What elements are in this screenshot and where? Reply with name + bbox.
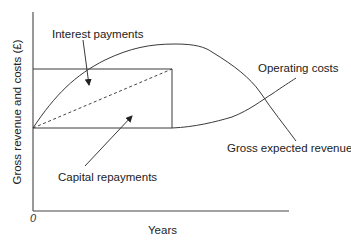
interest-payments-arrow (83, 40, 89, 85)
origin-label: 0 (30, 212, 37, 224)
capital-repayments-arrow (85, 116, 132, 166)
interest-payments-label: Interest payments (52, 28, 144, 40)
operating-costs-curve (172, 78, 296, 128)
gross-expected-revenue-label: Gross expected revenue (227, 142, 351, 154)
operating-costs-label: Operating costs (258, 62, 339, 74)
financing-diagram: Gross revenue and costs (£) Years 0 Inte… (0, 0, 351, 249)
capital-repayments-label: Capital repayments (58, 171, 157, 183)
y-axis-label: Gross revenue and costs (£) (11, 39, 23, 184)
capital-repayments-line (33, 69, 172, 128)
gross-expected-revenue-curve (33, 44, 296, 141)
x-axis-label: Years (148, 224, 177, 236)
